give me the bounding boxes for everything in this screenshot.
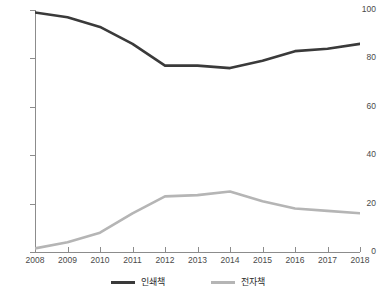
legend-item-ebook[interactable]: 전자책 bbox=[211, 277, 265, 287]
x-tick-label-2017: 2017 bbox=[311, 255, 345, 265]
x-tick-label-2011: 2011 bbox=[116, 255, 150, 265]
x-tick-label-2012: 2012 bbox=[148, 255, 182, 265]
x-tick-label-2014: 2014 bbox=[213, 255, 247, 265]
x-axis-line bbox=[35, 252, 360, 253]
x-tick-label-2016: 2016 bbox=[278, 255, 312, 265]
legend-swatch-print-icon bbox=[111, 281, 135, 284]
legend-label-ebook: 전자책 bbox=[241, 277, 265, 287]
series-svg bbox=[35, 10, 360, 252]
legend-swatch-ebook-icon bbox=[211, 281, 235, 284]
x-tick-label-2013: 2013 bbox=[181, 255, 215, 265]
series-line-print bbox=[35, 12, 360, 68]
legend-item-print[interactable]: 인쇄책 bbox=[111, 277, 165, 287]
x-tick-label-2015: 2015 bbox=[246, 255, 280, 265]
x-tick-label-2010: 2010 bbox=[83, 255, 117, 265]
legend-label-print: 인쇄책 bbox=[141, 277, 165, 287]
x-tick-label-2008: 2008 bbox=[18, 255, 52, 265]
x-tick-10 bbox=[360, 247, 361, 252]
y-tick-0 bbox=[30, 252, 35, 253]
x-tick-label-2018: 2018 bbox=[343, 255, 377, 265]
x-tick-label-2009: 2009 bbox=[51, 255, 85, 265]
series-line-ebook bbox=[35, 192, 360, 249]
plot-area bbox=[35, 10, 360, 252]
chart-legend: 인쇄책 전자책 bbox=[0, 277, 376, 287]
